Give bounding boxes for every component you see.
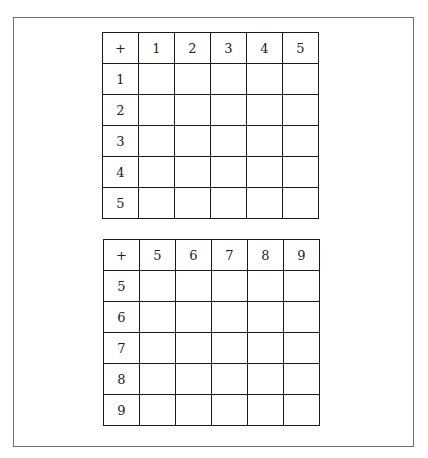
answer-cell[interactable] — [248, 271, 284, 302]
answer-cell[interactable] — [140, 364, 176, 395]
answer-cell[interactable] — [248, 395, 284, 426]
answer-cell[interactable] — [139, 64, 175, 95]
column-header: 6 — [176, 240, 212, 271]
answer-cell[interactable] — [139, 95, 175, 126]
row-header: 2 — [103, 95, 139, 126]
column-header: 3 — [211, 33, 247, 64]
answer-cell[interactable] — [283, 188, 319, 219]
row-header: 4 — [103, 157, 139, 188]
answer-cell[interactable] — [212, 333, 248, 364]
row-header: 3 — [103, 126, 139, 157]
table-row: 7 — [104, 333, 320, 364]
answer-cell[interactable] — [212, 302, 248, 333]
answer-cell[interactable] — [211, 126, 247, 157]
answer-cell[interactable] — [247, 188, 283, 219]
answer-cell[interactable] — [247, 95, 283, 126]
corner-cell: + — [104, 240, 140, 271]
answer-cell[interactable] — [284, 271, 320, 302]
column-header: 5 — [283, 33, 319, 64]
answer-cell[interactable] — [212, 271, 248, 302]
answer-cell[interactable] — [283, 95, 319, 126]
answer-cell[interactable] — [176, 364, 212, 395]
table-row: 5 — [104, 271, 320, 302]
table-row: 3 — [103, 126, 319, 157]
addition-table-2: + 5 6 7 8 9 5 6 7 8 9 — [103, 239, 320, 426]
answer-cell[interactable] — [284, 364, 320, 395]
row-header: 9 — [104, 395, 140, 426]
answer-cell[interactable] — [175, 95, 211, 126]
table-row: 6 — [104, 302, 320, 333]
answer-cell[interactable] — [211, 95, 247, 126]
row-header: 5 — [104, 271, 140, 302]
answer-cell[interactable] — [247, 126, 283, 157]
answer-cell[interactable] — [175, 64, 211, 95]
answer-cell[interactable] — [247, 64, 283, 95]
addition-table-1: + 1 2 3 4 5 1 2 3 4 5 — [102, 32, 319, 219]
table-row: 1 — [103, 64, 319, 95]
table-row: 5 — [103, 188, 319, 219]
answer-cell[interactable] — [284, 302, 320, 333]
corner-cell: + — [103, 33, 139, 64]
column-header: 9 — [284, 240, 320, 271]
answer-cell[interactable] — [283, 126, 319, 157]
column-header: 7 — [212, 240, 248, 271]
answer-cell[interactable] — [176, 302, 212, 333]
row-header: 5 — [103, 188, 139, 219]
answer-cell[interactable] — [212, 395, 248, 426]
answer-cell[interactable] — [284, 333, 320, 364]
answer-cell[interactable] — [176, 271, 212, 302]
answer-cell[interactable] — [283, 64, 319, 95]
answer-cell[interactable] — [247, 157, 283, 188]
answer-cell[interactable] — [175, 188, 211, 219]
column-header: 5 — [140, 240, 176, 271]
header-row: + 5 6 7 8 9 — [104, 240, 320, 271]
column-header: 1 — [139, 33, 175, 64]
answer-cell[interactable] — [140, 271, 176, 302]
answer-cell[interactable] — [140, 395, 176, 426]
column-header: 8 — [248, 240, 284, 271]
table-row: 9 — [104, 395, 320, 426]
answer-cell[interactable] — [284, 395, 320, 426]
answer-cell[interactable] — [212, 364, 248, 395]
table-row: 8 — [104, 364, 320, 395]
answer-cell[interactable] — [211, 157, 247, 188]
answer-cell[interactable] — [140, 302, 176, 333]
answer-cell[interactable] — [211, 188, 247, 219]
header-row: + 1 2 3 4 5 — [103, 33, 319, 64]
answer-cell[interactable] — [175, 157, 211, 188]
answer-cell[interactable] — [248, 364, 284, 395]
row-header: 7 — [104, 333, 140, 364]
answer-cell[interactable] — [211, 64, 247, 95]
answer-cell[interactable] — [248, 333, 284, 364]
answer-cell[interactable] — [176, 395, 212, 426]
answer-cell[interactable] — [248, 302, 284, 333]
table-row: 4 — [103, 157, 319, 188]
column-header: 2 — [175, 33, 211, 64]
answer-cell[interactable] — [175, 126, 211, 157]
row-header: 1 — [103, 64, 139, 95]
answer-cell[interactable] — [176, 333, 212, 364]
row-header: 6 — [104, 302, 140, 333]
column-header: 4 — [247, 33, 283, 64]
answer-cell[interactable] — [139, 126, 175, 157]
answer-cell[interactable] — [139, 188, 175, 219]
answer-cell[interactable] — [140, 333, 176, 364]
answer-cell[interactable] — [139, 157, 175, 188]
answer-cell[interactable] — [283, 157, 319, 188]
row-header: 8 — [104, 364, 140, 395]
table-row: 2 — [103, 95, 319, 126]
